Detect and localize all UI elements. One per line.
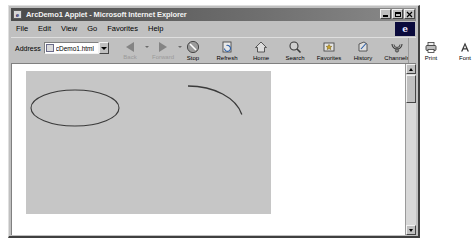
minimize-icon [383,15,388,17]
chevron-down-icon [409,229,413,232]
ie-document-icon: e [13,10,22,19]
close-button[interactable] [404,9,415,19]
address-bar: Address cDemo1.html [15,42,109,54]
refresh-button[interactable]: Refresh [210,39,244,62]
favorites-icon [321,40,337,54]
home-button[interactable]: Home [244,39,278,62]
channels-icon [389,40,405,54]
chevron-down-icon [101,47,107,50]
back-label: Back [123,54,136,60]
favorites-button[interactable]: Favorites [312,39,346,62]
menu-item-go[interactable]: Go [82,23,102,35]
menu-item-edit[interactable]: Edit [33,23,56,35]
search-button[interactable]: Search [278,39,312,62]
favorites-label: Favorites [317,55,342,62]
minimize-button[interactable] [380,9,391,19]
forward-button[interactable]: Forward [150,40,176,60]
home-label: Home [253,55,269,62]
toolbar-overflow[interactable] [408,38,416,63]
history-button[interactable]: History [346,39,380,62]
history-label: History [354,55,373,62]
arrow-right-icon [159,42,167,52]
refresh-label: Refresh [216,55,237,62]
menu-bar: File Edit View Go Favorites Help e [11,22,416,36]
arrow-left-icon [126,42,134,52]
toolbar: Address cDemo1.html Back [11,37,416,62]
print-icon [423,40,439,54]
chevron-down-icon [145,46,149,48]
refresh-icon [219,40,235,54]
page-icon [46,44,54,52]
quarter-arc-shape [188,86,242,115]
font-label: Font [459,55,471,62]
maximize-icon [395,12,401,17]
java-applet-canvas[interactable] [26,71,271,214]
chevron-up-icon [409,68,413,71]
stop-icon [185,40,201,54]
address-input[interactable]: cDemo1.html [44,42,99,54]
scroll-up-button[interactable] [406,64,416,74]
close-icon [406,11,413,18]
address-value: cDemo1.html [56,45,94,52]
page-content-area [11,63,416,235]
scrollbar-thumb[interactable] [406,75,416,103]
back-button[interactable]: Back [117,40,143,60]
history-icon [355,40,371,54]
menu-item-help[interactable]: Help [143,23,168,35]
font-button[interactable]: Font [448,39,476,62]
title-bar[interactable]: e ArcDemo1 Applet - Microsoft Internet E… [11,8,416,21]
print-button[interactable]: Print [414,39,448,62]
menu-item-view[interactable]: View [56,23,82,35]
print-label: Print [425,55,437,62]
search-label: Search [285,55,304,62]
stop-label: Stop [187,55,199,62]
menu-item-file[interactable]: File [11,23,33,35]
full-ellipse-shape [31,90,119,126]
home-icon [253,40,269,54]
font-icon [457,40,473,54]
scroll-down-button[interactable] [406,225,416,235]
maximize-button[interactable] [392,9,403,19]
address-dropdown-button[interactable] [99,42,109,54]
window-title: ArcDemo1 Applet - Microsoft Internet Exp… [26,10,187,19]
channels-label: Channels [384,55,409,62]
forward-label: Forward [152,54,174,60]
search-icon [287,40,303,54]
vertical-scrollbar[interactable] [405,64,416,235]
stop-button[interactable]: Stop [176,39,210,62]
browser-window: e ArcDemo1 Applet - Microsoft Internet E… [8,5,420,238]
navigation-buttons: Back Forward [117,40,183,62]
applet-drawing [26,71,271,214]
menu-item-favorites[interactable]: Favorites [102,23,143,35]
toolbar-buttons: Stop Refresh [176,39,476,62]
window-controls [380,9,415,19]
ie-logo-icon: e [395,22,415,36]
address-label: Address [15,45,41,52]
back-dropdown[interactable] [143,40,150,48]
